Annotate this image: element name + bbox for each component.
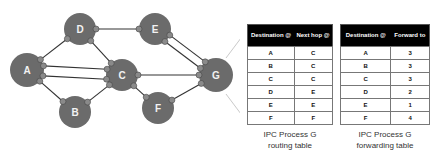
link-D-C — [91, 41, 111, 63]
network-diagram: ABCDEFG — [0, 0, 240, 154]
cell-next-hop: C — [294, 47, 333, 60]
column-header-destination: Destination @ — [341, 25, 391, 47]
cell-destination: D — [341, 86, 391, 99]
port-icon — [197, 65, 203, 71]
forwarding-table-caption: IPC Process G forwarding table — [340, 129, 430, 151]
cell-destination: A — [341, 47, 391, 60]
cell-forward-to: 3 — [391, 60, 430, 73]
cell-next-hop: C — [294, 73, 333, 86]
cell-forward-to: 4 — [391, 112, 430, 125]
caption-line: routing table — [247, 140, 333, 151]
port-icon — [37, 78, 43, 84]
table-row: C3 — [341, 73, 430, 86]
port-icon — [40, 73, 46, 79]
table-row: D2 — [341, 86, 430, 99]
port-icon — [93, 26, 99, 32]
cell-forward-to: 2 — [391, 86, 430, 99]
caption-line: forwarding table — [340, 140, 430, 151]
cell-next-hop: E — [294, 86, 333, 99]
port-icon — [85, 99, 91, 105]
cell-destination: C — [248, 73, 295, 86]
caption-line: IPC Process G — [247, 129, 333, 140]
cell-next-hop: F — [294, 112, 333, 125]
table-row: FF — [248, 112, 333, 125]
port-icon — [40, 63, 46, 69]
table-row: BC — [248, 60, 333, 73]
cell-destination: F — [248, 112, 295, 125]
routing-table-caption: IPC Process G routing table — [247, 129, 333, 151]
table-row: E1 — [341, 99, 430, 112]
cell-destination: E — [341, 99, 391, 112]
cell-next-hop: C — [294, 60, 333, 73]
node-label: E — [152, 24, 159, 35]
table-row: EE — [248, 99, 333, 112]
column-header-next-hop: Next hop @ — [294, 25, 333, 47]
link-B-C — [88, 85, 110, 102]
table-row: F4 — [341, 112, 430, 125]
node-label: C — [118, 70, 125, 81]
link-A-C — [43, 76, 107, 79]
column-header-forward-to: Forward to — [391, 25, 430, 47]
table-row: B3 — [341, 60, 430, 73]
port-icon — [131, 83, 137, 89]
link-F-G — [172, 83, 201, 100]
forwarding-table: Destination @ Forward to A3 B3 C3 D2 E1 … — [340, 24, 430, 125]
port-icon — [167, 32, 173, 38]
port-icon — [202, 59, 208, 65]
node-label: F — [155, 103, 161, 114]
port-icon — [37, 57, 43, 63]
cell-forward-to: 1 — [391, 99, 430, 112]
port-icon — [106, 82, 112, 88]
port-icon — [135, 72, 141, 78]
port-icon — [60, 98, 66, 104]
port-icon — [108, 60, 114, 66]
port-icon — [104, 76, 110, 82]
cell-forward-to: 3 — [391, 47, 430, 60]
cell-forward-to: 3 — [391, 73, 430, 86]
routing-table: Destination @ Next hop @ AC BC CC DE EE … — [247, 24, 333, 125]
port-icon — [104, 66, 110, 72]
port-icon — [169, 97, 175, 103]
cell-destination: D — [248, 86, 295, 99]
port-icon — [88, 38, 94, 44]
table-row: CC — [248, 73, 333, 86]
link-A-C — [43, 66, 107, 69]
cell-destination: B — [341, 60, 391, 73]
cell-next-hop: E — [294, 99, 333, 112]
link-A-D — [40, 39, 67, 60]
node-label: D — [76, 24, 83, 35]
column-header-destination: Destination @ — [248, 25, 295, 47]
port-icon — [162, 39, 168, 45]
link-A-B — [40, 81, 63, 101]
cell-destination: C — [341, 73, 391, 86]
cell-destination: E — [248, 99, 295, 112]
cell-destination: A — [248, 47, 295, 60]
node-label: G — [212, 70, 220, 81]
port-icon — [196, 72, 202, 78]
cell-destination: F — [341, 112, 391, 125]
table-row: AC — [248, 47, 333, 60]
port-icon — [64, 36, 70, 42]
caption-line: IPC Process G — [340, 129, 430, 140]
node-label: A — [23, 65, 30, 76]
port-icon — [143, 94, 149, 100]
cell-destination: B — [248, 60, 295, 73]
port-icon — [198, 80, 204, 86]
table-row: A3 — [341, 47, 430, 60]
node-label: B — [71, 107, 78, 118]
port-icon — [136, 26, 142, 32]
table-row: DE — [248, 86, 333, 99]
